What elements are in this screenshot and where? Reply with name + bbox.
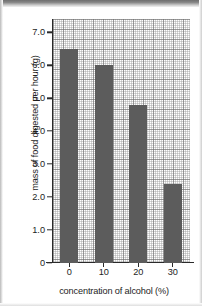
y-tick-label: 2.0 [13,192,45,202]
x-axis-title: concentration of alcohol (%) [30,286,198,296]
y-tick-label: 1.0 [13,225,45,235]
y-tick-label: 6.0 [13,60,45,70]
y-tick-mark [47,163,52,164]
x-tick-label: 20 [123,267,153,277]
chart-figure: mass of food digested per hour (g) 01.02… [0,0,202,306]
y-tick-mark [47,31,52,32]
x-tick-label: 10 [89,267,119,277]
y-tick-label: 4.0 [13,126,45,136]
y-tick-mark [47,229,52,230]
x-tick-label: 0 [54,267,84,277]
y-tick-mark [47,130,52,131]
bar [60,49,78,263]
bar [129,105,147,263]
scan-left-edge [0,0,3,306]
scan-right-edge [199,0,202,306]
y-tick-label: 0 [13,258,45,268]
y-tick-mark [47,262,52,263]
y-tick-label: 5.0 [13,93,45,103]
scan-top-band [0,0,202,7]
y-tick-label: 7.0 [13,27,45,37]
y-tick-mark [47,97,52,98]
y-tick-mark [47,196,52,197]
bar [95,65,113,263]
y-tick-label: 3.0 [13,159,45,169]
y-tick-mark [47,64,52,65]
bar [164,184,182,263]
x-tick-label: 30 [158,267,188,277]
